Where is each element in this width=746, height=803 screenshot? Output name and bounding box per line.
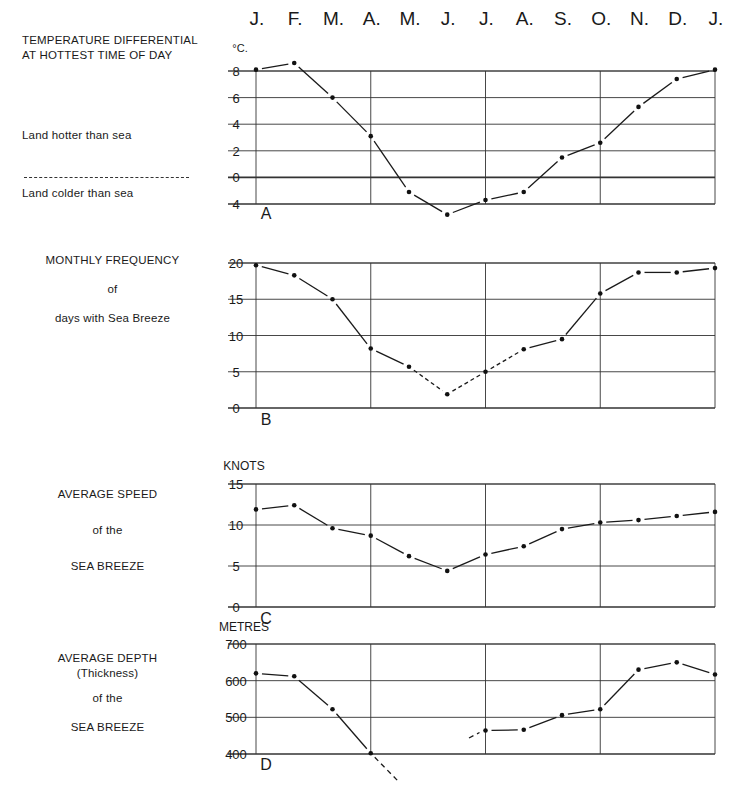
data-segment-a: [683, 71, 710, 77]
data-point-b: [560, 337, 565, 342]
data-point-b: [598, 291, 603, 296]
data-segment-c: [376, 538, 404, 553]
data-point-a: [330, 95, 335, 100]
data-segment-a: [491, 193, 518, 199]
data-point-c: [330, 526, 335, 531]
ytick-label-b: 0: [232, 401, 239, 416]
panel-letter-d: D: [260, 756, 272, 773]
data-point-b: [407, 364, 412, 369]
data-segment-d: [682, 664, 709, 672]
data-point-a: [521, 190, 526, 195]
data-segment-b: [491, 352, 519, 368]
data-segment-b: [414, 370, 443, 391]
unit-label-d: METRES: [219, 620, 269, 634]
data-point-b: [521, 347, 526, 352]
data-segment-b: [530, 341, 557, 348]
data-point-c: [560, 527, 565, 532]
data-segment-d: [568, 710, 594, 714]
data-point-b: [483, 369, 488, 374]
data-segment-c: [415, 558, 442, 568]
ytick-label-a: 8: [232, 64, 239, 79]
ytick-label-c: 5: [232, 559, 239, 574]
ytick-label-d: 700: [225, 637, 247, 652]
data-segment-b: [262, 267, 289, 274]
data-segment-a: [374, 141, 405, 187]
ytick-label-d: 400: [225, 747, 247, 762]
data-point-c: [292, 503, 297, 508]
data-point-a: [407, 190, 412, 195]
ytick-label-a: 4: [232, 197, 239, 212]
data-point-c: [254, 507, 259, 512]
data-point-b: [292, 273, 297, 278]
data-segment-d: [491, 730, 517, 731]
data-point-a: [445, 212, 450, 217]
data-segment-c: [644, 517, 670, 520]
data-segment-b: [452, 375, 480, 391]
ytick-label-b: 20: [229, 256, 243, 271]
data-segment-a: [643, 83, 672, 104]
ytick-label-a: 6: [232, 91, 239, 106]
data-point-d: [598, 707, 603, 712]
ytick-label-d: 600: [225, 674, 247, 689]
data-segment-c: [529, 532, 556, 544]
data-point-b: [330, 297, 335, 302]
data-point-b: [445, 392, 450, 397]
data-point-a: [254, 67, 259, 72]
ytick-label-d: 500: [225, 710, 247, 725]
data-point-c: [445, 569, 450, 574]
data-point-a: [713, 67, 718, 72]
data-segment-a: [528, 161, 557, 188]
data-point-c: [483, 552, 488, 557]
data-segment-a: [337, 102, 367, 132]
data-point-b: [636, 270, 641, 275]
data-point-d: [330, 707, 335, 712]
unit-label-a: °C.: [232, 42, 247, 54]
data-point-d: [636, 667, 641, 672]
ytick-label-a: 0: [232, 170, 239, 185]
data-segment-c: [568, 524, 594, 529]
data-segment-c: [606, 520, 632, 522]
data-point-d: [713, 672, 718, 677]
data-segment-c: [453, 557, 480, 569]
data-segment-d: [336, 714, 366, 749]
data-point-b: [254, 263, 259, 268]
data-point-d: [254, 671, 259, 676]
data-segment-a: [605, 111, 635, 139]
ytick-label-c: 0: [232, 600, 239, 615]
ytick-label-c: 15: [229, 477, 243, 492]
ytick-label-a: 2: [232, 144, 239, 159]
chart-panels: 864204A°C.05101520B051015CKNOTS400500600…: [0, 0, 746, 803]
data-segment-b: [376, 351, 403, 364]
data-segment-b: [606, 275, 634, 290]
data-segment-a: [568, 145, 595, 155]
ytick-label-c: 10: [229, 518, 243, 533]
data-segment-c: [262, 506, 288, 509]
data-segment-c: [338, 529, 364, 534]
data-point-d: [560, 713, 565, 718]
data-point-a: [368, 134, 373, 139]
data-point-a: [483, 198, 488, 203]
data-segment-c: [299, 508, 327, 525]
data-point-d: [674, 660, 679, 665]
panel-letter-a: A: [261, 205, 272, 222]
data-segment-d: [262, 674, 288, 676]
data-segment-d: [604, 674, 634, 705]
sea-breeze-figure: J.F.M.A.M.J.J.A.S.O.N.D.J. TEMPERATURE D…: [0, 0, 746, 803]
data-point-c: [674, 514, 679, 519]
data-point-a: [674, 77, 679, 82]
data-segment-b: [299, 279, 327, 297]
data-point-b: [368, 346, 373, 351]
data-segment-b: [683, 269, 709, 272]
data-point-c: [368, 533, 373, 538]
data-segment-offscale-d: [469, 733, 480, 738]
ytick-label-b: 10: [229, 329, 243, 344]
data-point-c: [598, 520, 603, 525]
data-segment-b: [336, 304, 367, 344]
data-point-a: [636, 105, 641, 110]
data-segment-a: [262, 64, 288, 69]
data-point-a: [292, 61, 297, 66]
data-point-d: [521, 728, 526, 733]
data-point-d: [292, 674, 297, 679]
data-segment-c: [491, 548, 518, 554]
data-point-b: [674, 270, 679, 275]
